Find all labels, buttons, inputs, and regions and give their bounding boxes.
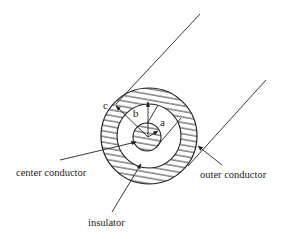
label-b: b [133,107,139,119]
label-a: a [160,116,165,128]
coax-diagram: a b c center conductor outer conductor i… [0,0,281,239]
center-conductor-disc [133,123,161,151]
coax-diagram-svg: a b c center conductor outer conductor i… [0,0,281,239]
label-c: c [103,99,108,111]
label-insulator: insulator [88,217,125,228]
label-outer-conductor: outer conductor [200,169,267,180]
label-center-conductor: center conductor [16,167,87,178]
